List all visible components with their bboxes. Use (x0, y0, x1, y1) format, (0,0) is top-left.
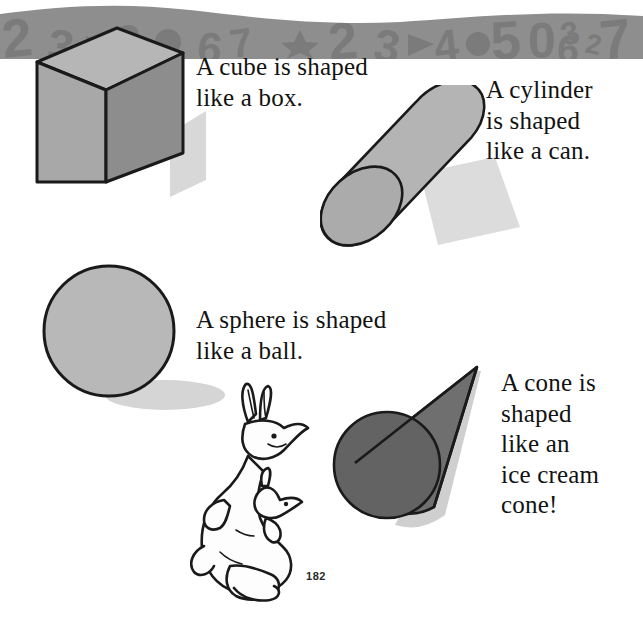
joey-arm (264, 518, 281, 542)
svg-text:7: 7 (597, 6, 635, 59)
cone-base (334, 412, 440, 518)
cube-illustration (20, 15, 220, 205)
sphere-body (44, 266, 174, 396)
kangaroo-eye (271, 433, 276, 438)
svg-text:5: 5 (489, 9, 523, 59)
book-page: A cube is shaped like a box. A cylinder … (0, 0, 643, 637)
svg-text:0: 0 (528, 13, 556, 59)
joey-ear (261, 468, 270, 486)
caption-cone: A cone is shaped like an ice cream cone! (501, 368, 599, 521)
cone-illustration (325, 355, 525, 545)
joey-eye (284, 502, 288, 506)
kangaroo-head (242, 421, 308, 459)
joey-head (254, 488, 302, 519)
svg-text:6: 6 (555, 26, 581, 59)
page-number: 182 (292, 570, 340, 582)
caption-cylinder: A cylinder is shaped like a can. (486, 75, 593, 167)
